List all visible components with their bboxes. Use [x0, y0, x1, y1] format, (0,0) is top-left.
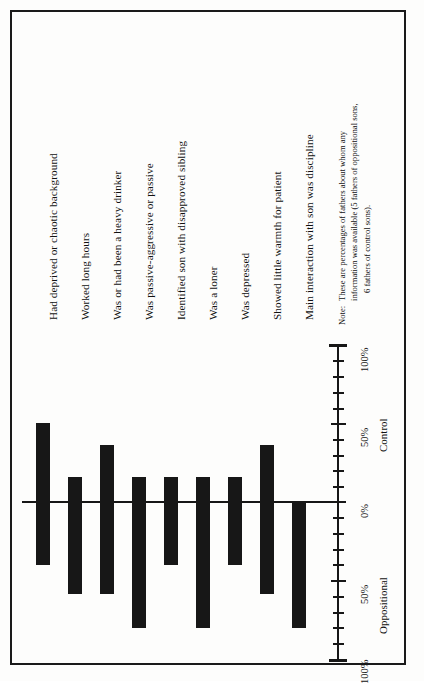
bar-control-2 [68, 477, 82, 502]
axis-label-control-50: 50% [359, 428, 370, 447]
axis-tick-minor [333, 376, 344, 378]
axis-tick-minor [333, 392, 344, 394]
axis-tick-minor [333, 517, 344, 519]
axis-label-oppositional-50: 50% [359, 585, 370, 604]
bar-control-4 [132, 477, 146, 502]
axis-tick-minor [333, 455, 344, 457]
axis-cap-bottom [329, 659, 347, 662]
bar-control-8 [260, 445, 274, 502]
bar-control-3 [100, 445, 114, 502]
bar-oppositional-8 [260, 502, 274, 594]
axis-tick-minor [333, 596, 344, 598]
bar-control-5 [164, 477, 178, 502]
bar-oppositional-3 [100, 502, 114, 594]
axis-tick-minor [333, 360, 344, 362]
axis-tick-minor [333, 612, 344, 614]
bar-control-1 [36, 423, 50, 502]
axis-tick-minor [333, 549, 344, 551]
bar-oppositional-7 [228, 502, 242, 565]
axis-tick-minor [333, 564, 344, 566]
axis-cap-top [329, 344, 347, 347]
bar-oppositional-2 [68, 502, 82, 594]
axis-label-oppositional-100: 100% [359, 660, 370, 684]
axis-label-control-100: 100% [359, 348, 370, 373]
axis-tick-minor [333, 643, 344, 645]
bar-control-6 [196, 477, 210, 502]
axis-group-control: Control [377, 418, 389, 452]
axis-tick-major-zero [331, 501, 346, 503]
axis-tick-minor [333, 439, 344, 441]
axis-tick-minor [333, 408, 344, 410]
axis-tick-minor [333, 627, 344, 629]
axis-label-zero: 0% [359, 504, 370, 518]
bar-oppositional-9 [292, 502, 306, 628]
bar-oppositional-6 [196, 502, 210, 628]
bar-control-7 [228, 477, 242, 502]
bar-oppositional-1 [36, 502, 50, 565]
axis-tick-major-control-50 [331, 423, 346, 425]
axis-group-oppositional: Oppositional [377, 577, 389, 634]
axis-tick-minor [333, 470, 344, 472]
bar-oppositional-5 [164, 502, 178, 565]
axis-tick-major-oppositional-50 [331, 580, 346, 582]
bar-oppositional-4 [132, 502, 146, 628]
axis-tick-minor [333, 533, 344, 535]
axis-tick-minor [333, 486, 344, 488]
